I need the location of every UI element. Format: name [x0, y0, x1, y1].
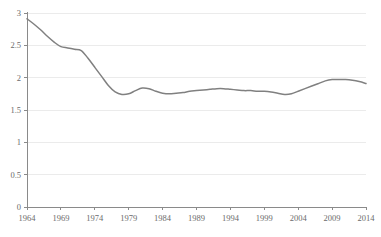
x-tick-label-2009: 2009 [324, 213, 341, 223]
x-tick-label-2004: 2004 [290, 213, 308, 223]
y-tick-label-1.5: 1.5 [10, 105, 21, 115]
x-tick-label-1989: 1989 [188, 213, 205, 223]
y-tick-label-2.5: 2.5 [10, 40, 21, 50]
series-lines [27, 19, 366, 95]
gridlines [27, 13, 366, 175]
y-tick-label-0: 0 [17, 202, 21, 212]
series-line-series-1 [27, 19, 366, 95]
y-tick-label-3: 3 [17, 8, 21, 18]
axes [27, 12, 366, 207]
x-axis-tick-labels: 1964196919741979198419891994199920042009… [19, 213, 376, 223]
x-tick-label-2014: 2014 [358, 213, 376, 223]
x-tick-label-1984: 1984 [154, 213, 172, 223]
x-tick-label-1969: 1969 [52, 213, 69, 223]
x-tick-label-1974: 1974 [86, 213, 104, 223]
line-chart: 1964196919741979198419891994199920042009… [0, 0, 381, 237]
y-tick-label-0.5: 0.5 [10, 170, 21, 180]
chart-canvas: 1964196919741979198419891994199920042009… [0, 0, 381, 237]
x-tick-label-1994: 1994 [222, 213, 240, 223]
y-tick-label-1: 1 [17, 137, 21, 147]
x-tick-label-1999: 1999 [256, 213, 273, 223]
x-tick-label-1979: 1979 [120, 213, 137, 223]
y-tick-label-2: 2 [17, 73, 21, 83]
y-axis-tick-labels: 00.511.522.53 [10, 8, 21, 212]
x-tick-label-1964: 1964 [19, 213, 37, 223]
